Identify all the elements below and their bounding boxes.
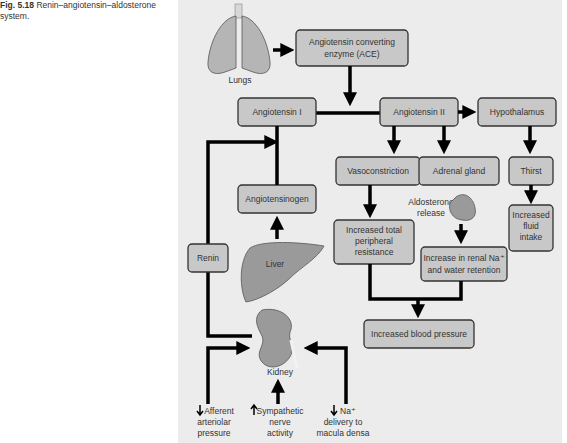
na-label-3: macula densa bbox=[317, 428, 370, 438]
arrow-afferent-kidney bbox=[208, 348, 244, 404]
sympathetic-label-3: activity bbox=[267, 428, 294, 438]
liver-label: Liver bbox=[266, 259, 285, 269]
hypothalamus-label: Hypothalamus bbox=[490, 107, 544, 117]
aldosterone-label-1: Aldosterone bbox=[408, 197, 454, 207]
angiotensin-i-label: Angiotensin I bbox=[252, 107, 301, 117]
liver-icon bbox=[241, 243, 324, 303]
afferent-label-2: arteriolar bbox=[197, 417, 231, 427]
sympathetic-label-1: Sympathetic bbox=[257, 406, 305, 416]
renal-retention-label-2: and water retention bbox=[428, 265, 501, 275]
thirst-label: Thirst bbox=[520, 166, 542, 176]
na-stimulus: Na⁺ delivery to macula densa bbox=[317, 405, 370, 438]
tpr-label-3: resistance bbox=[355, 247, 394, 257]
lungs-label: Lungs bbox=[228, 75, 251, 85]
connector-renin-loop bbox=[208, 142, 272, 336]
kidney-icon bbox=[257, 309, 297, 368]
angiotensin-ii-label: Angiotensin II bbox=[393, 107, 445, 117]
afferent-stimulus: Afferent arteriolar pressure bbox=[197, 405, 234, 438]
renal-retention-label-1: Increase in renal Na⁺ bbox=[423, 253, 504, 263]
ace-label-2: enzyme (ACE) bbox=[324, 49, 379, 59]
sympathetic-label-2: nerve bbox=[269, 417, 291, 427]
na-label-1: Na⁺ bbox=[340, 406, 356, 416]
aldosterone-label-2: release bbox=[417, 208, 445, 218]
raas-diagram: Lungs Angiotensin converting enzyme (ACE… bbox=[0, 0, 567, 443]
kidney-label: Kidney bbox=[267, 367, 294, 377]
renin-label: Renin bbox=[197, 253, 219, 263]
afferent-label-1: Afferent bbox=[204, 406, 234, 416]
ace-box bbox=[296, 30, 408, 66]
lungs-icon bbox=[208, 4, 270, 74]
tpr-label-2: peripheral bbox=[355, 236, 393, 246]
vasoconstriction-label: Vasoconstriction bbox=[347, 166, 409, 176]
sympathetic-stimulus: Sympathetic nerve activity bbox=[251, 405, 304, 438]
tpr-label-1: Increased total bbox=[346, 225, 402, 235]
afferent-label-3: pressure bbox=[197, 428, 230, 438]
down-arrow-icon bbox=[331, 405, 337, 415]
fluid-label-3: intake bbox=[520, 232, 543, 242]
blood-pressure-label: Increased blood pressure bbox=[371, 329, 467, 339]
angiotensinogen-label: Angiotensinogen bbox=[245, 194, 309, 204]
ace-label-1: Angiotensin converting bbox=[309, 37, 395, 47]
na-label-2: delivery to bbox=[324, 417, 363, 427]
down-arrow-icon bbox=[197, 405, 203, 415]
fluid-label-1: Increased bbox=[512, 210, 550, 220]
fluid-label-2: fluid bbox=[523, 221, 539, 231]
arrow-na-kidney bbox=[310, 348, 346, 404]
adrenal-gland-label: Adrenal gland bbox=[433, 166, 486, 176]
